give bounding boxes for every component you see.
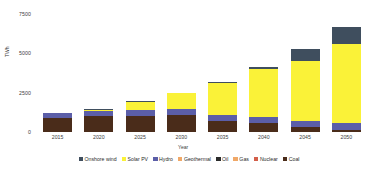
legend-swatch-icon [283,157,288,162]
bar-2030[interactable] [167,93,196,132]
bar-2050[interactable] [332,27,361,132]
bar-segment-solar-pv [126,102,155,110]
y-tick-label: 0 [28,129,31,135]
x-tick-label: 2050 [341,134,353,140]
x-tick-label: 2015 [52,134,64,140]
bar-segment-hydro [291,121,320,128]
legend-swatch-icon [122,157,127,162]
bar-segment-coal [249,123,278,132]
x-tick-label: 2020 [93,134,105,140]
bar-segment-onshore-wind [332,27,361,44]
chart-legend: Onshore windSolar PVHydroGeothermalOilGa… [0,156,378,162]
legend-item-coal[interactable]: Coal [283,156,300,162]
bar-segment-solar-pv [249,69,278,117]
x-tick-label: 2035 [217,134,229,140]
plot-area [37,14,367,132]
bar-2020[interactable] [84,109,113,132]
chart-figure: 0250050007500 TWh 2015202020252030203520… [0,0,378,175]
legend-label: Gas [239,156,249,162]
legend-swatch-icon [254,157,259,162]
legend-item-nuclear[interactable]: Nuclear [254,156,278,162]
y-tick-label: 2500 [19,90,31,96]
legend-swatch-icon [216,157,221,162]
bar-segment-coal [167,115,196,132]
legend-label: Hydro [159,156,173,162]
legend-swatch-icon [178,157,183,162]
legend-item-oil[interactable]: Oil [216,156,228,162]
legend-swatch-icon [233,157,238,162]
bar-segment-coal [208,121,237,132]
bar-segment-coal [43,118,72,132]
legend-label: Onshore wind [85,156,117,162]
x-tick-label: 2040 [258,134,270,140]
bar-segment-onshore-wind [291,49,320,61]
x-axis-title: Year [178,144,188,150]
legend-label: Oil [222,156,228,162]
legend-label: Solar PV [128,156,148,162]
legend-label: Geothermal [184,156,211,162]
y-axis: 0250050007500 [0,14,33,132]
bar-segment-hydro [332,123,361,130]
bar-2045[interactable] [291,49,320,132]
legend-swatch-icon [153,157,158,162]
legend-item-gas[interactable]: Gas [233,156,249,162]
x-tick-label: 2025 [134,134,146,140]
y-tick-label: 5000 [19,50,31,56]
bar-2025[interactable] [126,101,155,132]
legend-item-solar-pv[interactable]: Solar PV [122,156,148,162]
legend-label: Coal [289,156,300,162]
bar-segment-solar-pv [167,93,196,109]
bar-2035[interactable] [208,82,237,132]
x-tick-label: 2045 [299,134,311,140]
y-tick-label: 7500 [19,11,31,17]
bar-segment-solar-pv [208,83,237,115]
bar-segment-solar-pv [332,44,361,123]
bar-segment-coal [291,127,320,132]
y-axis-title: TWh [4,46,10,57]
legend-swatch-icon [79,157,84,162]
legend-label: Nuclear [260,156,278,162]
x-tick-label: 2030 [176,134,188,140]
bar-segment-coal [332,130,361,132]
bar-segment-coal [84,116,113,132]
legend-item-onshore-wind[interactable]: Onshore wind [79,156,117,162]
legend-item-geothermal[interactable]: Geothermal [178,156,211,162]
bar-2015[interactable] [43,113,72,132]
bar-segment-solar-pv [291,61,320,120]
legend-item-hydro[interactable]: Hydro [153,156,173,162]
bar-segment-coal [126,116,155,132]
bar-2040[interactable] [249,67,278,132]
x-axis: 20152020202520302035204020452050 [37,134,367,144]
